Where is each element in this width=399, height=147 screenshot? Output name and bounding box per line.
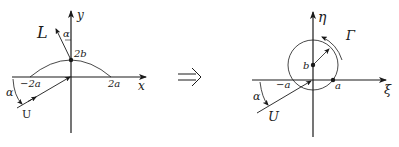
tick-pos-a: a [335, 80, 341, 91]
transform-arrow [178, 68, 201, 86]
angle-label-top: α [63, 28, 70, 39]
velocity-arrow [28, 97, 36, 102]
x-axis-label: x [138, 79, 145, 93]
diagram-canvas: y x L α 2b −2a 2a α U η ξ Γ b a −a α U [0, 0, 399, 147]
angle-label: α [253, 90, 261, 103]
point-label-2b: 2b [73, 48, 87, 59]
left-figure: y x L α 2b −2a 2a α U [6, 8, 146, 133]
tick-neg-a: −a [276, 79, 290, 90]
center-label-b: b [303, 60, 309, 71]
velocity-label: U [22, 108, 31, 121]
xi-axis-label: ξ [384, 82, 392, 97]
velocity-label: U [268, 109, 280, 124]
y-axis-label: y [76, 8, 84, 22]
eta-axis-label: η [318, 9, 327, 25]
tick-neg-2a: −2a [20, 78, 41, 89]
right-figure: η ξ Γ b a −a α U [252, 9, 392, 137]
angle-arc [260, 82, 268, 105]
angle-label-left: α [6, 86, 14, 99]
tick-pos-2a: 2a [107, 78, 120, 89]
radius-arrow [313, 49, 329, 65]
lift-label: L [36, 23, 48, 42]
circulation-label: Γ [345, 28, 356, 43]
